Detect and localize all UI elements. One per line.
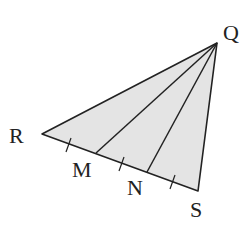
label-s: S [190,197,202,222]
label-n: N [127,175,143,200]
diagram-canvas: Q R M N S [0,0,250,236]
label-q: Q [223,20,239,45]
label-r: R [9,123,24,148]
label-m: M [72,157,92,182]
triangle-qrs [42,43,217,191]
triangle-diagram: Q R M N S [0,0,250,236]
